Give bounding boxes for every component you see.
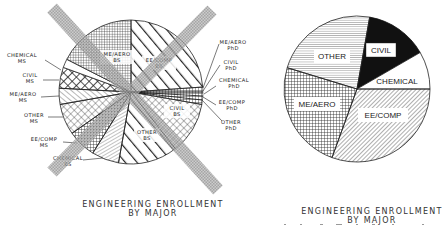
label-me-aero-bs-2: BS [113, 57, 121, 63]
left-caption-line2: BY MAJOR [68, 209, 238, 218]
label-me-aero-phd-2: PhD [227, 45, 239, 51]
right-pie-chart: CIVIL OTHER CHEMICAL ME/AERO EE/COMP [284, 16, 430, 162]
right-caption: ENGINEERING ENROLLMENT BY MAJOR [292, 207, 445, 225]
right-caption-line1: ENGINEERING ENROLLMENT [292, 207, 445, 216]
label-ee-comp: EE/COMP [365, 111, 402, 120]
label-other-phd-2: PhD [225, 125, 237, 131]
left-caption: ENGINEERING ENROLLMENT BY MAJOR [68, 200, 238, 218]
label-ee-comp-ms-2: MS [40, 142, 49, 148]
label-me-aero: ME/AERO [299, 100, 336, 109]
left-pie-chart: ME/AERO BS EE/COMP BS CIVIL BS OTHER BS … [7, 8, 249, 190]
label-chemical-phd-2: PhD [228, 83, 240, 89]
label-civil-phd-2: PhD [225, 65, 237, 71]
label-chemical: CHEMICAL [376, 77, 418, 86]
label-me-aero-bs-1: ME/AERO [104, 51, 131, 57]
label-civil: CIVIL [371, 46, 392, 55]
label-ee-comp-phd-2: PhD [226, 105, 238, 111]
label-me-aero-ms-2: MS [19, 97, 28, 103]
label-civil-ms-2: MS [26, 78, 35, 84]
label-other: OTHER [318, 52, 346, 61]
label-civil-bs-2: BS [173, 111, 181, 117]
left-caption-line1: ENGINEERING ENROLLMENT [68, 200, 238, 209]
label-other-ms-2: MS [30, 118, 39, 124]
label-chemical-ms-2: MS [18, 58, 27, 64]
label-other-bs-2: BS [143, 135, 151, 141]
right-caption-line2: BY MAJOR [292, 216, 445, 225]
label-civil-bs-1: CIVIL [169, 105, 184, 111]
